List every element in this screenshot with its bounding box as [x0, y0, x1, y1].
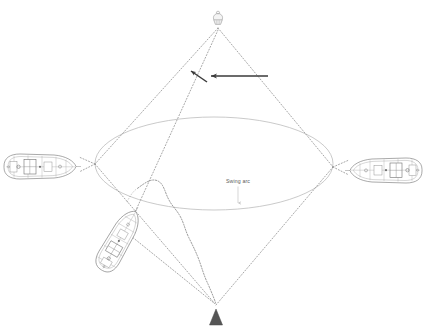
- mooring-lines-group: [79, 28, 349, 305]
- mooring-line-top-right: [218, 28, 333, 167]
- mooring-line-inner-lower: [126, 232, 214, 303]
- swing-arc-annotation: Swing arc: [226, 178, 250, 203]
- bridle-left-lower: [79, 164, 95, 172]
- swing-arc-label: Swing arc: [226, 178, 250, 184]
- mooring-line-top-left: [95, 28, 218, 164]
- swing-arc-diagram: Swing arc: [0, 0, 425, 335]
- vessel-left: [4, 154, 81, 179]
- arrows-group: [191, 71, 268, 82]
- vessel-right: [345, 158, 422, 183]
- bridle-right-upper: [333, 160, 349, 167]
- vessel-lower-left: [91, 202, 148, 276]
- mooring-line-right-bottom: [216, 167, 333, 305]
- arrow-short-diagonal: [191, 71, 207, 82]
- mooring-buoy-icon: [213, 11, 222, 24]
- bridle-left-upper: [79, 157, 95, 164]
- anchor-chain-line: [127, 180, 216, 304]
- anchor-marker-icon: [210, 309, 223, 325]
- bridle-right-lower: [333, 167, 349, 175]
- diagram-canvas: Swing arc: [0, 0, 425, 335]
- mooring-line-inner-left: [126, 30, 218, 232]
- swing-arc-curve: [95, 117, 333, 210]
